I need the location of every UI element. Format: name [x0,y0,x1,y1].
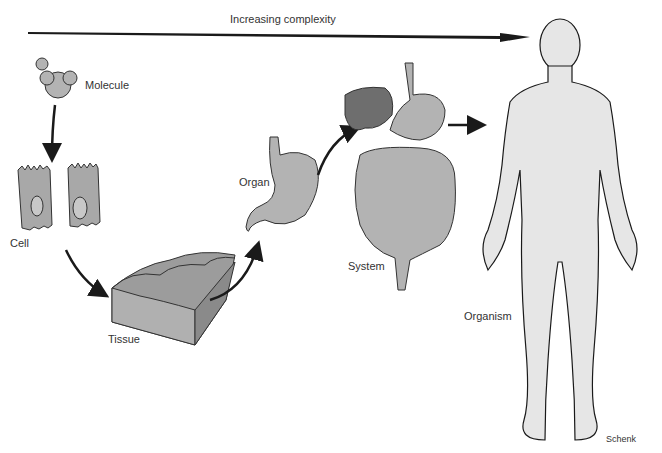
complexity-label: Increasing complexity [230,13,336,25]
molecule-label: Molecule [85,79,129,91]
arrow-organ-system [318,128,357,175]
complexity-arrow [28,32,530,42]
molecule-icon [36,58,77,98]
levels-of-organization-diagram [0,0,662,453]
organism-icon [483,19,637,440]
arrow-cell-tissue [66,250,105,295]
tissue-label: Tissue [108,333,140,345]
cell-icon [18,163,100,230]
arrow-molecule-cell [52,105,55,158]
organism-label: Organism [464,310,512,322]
system-label: System [348,260,385,272]
organ-label: Organ [239,176,270,188]
system-icon [345,63,455,290]
credit-label: Schenk [606,434,636,444]
cell-label: Cell [10,237,29,249]
